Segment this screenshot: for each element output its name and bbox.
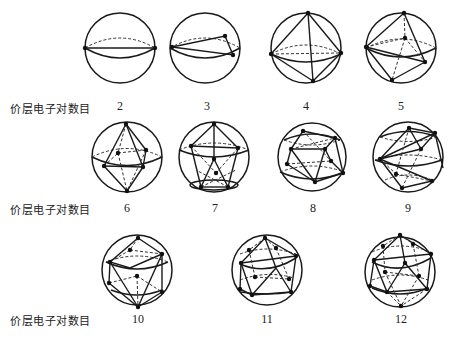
count-label-5: 5 — [398, 99, 404, 114]
count-label-3: 3 — [204, 99, 210, 114]
sphere-2-linear — [83, 13, 157, 83]
count-label-6: 6 — [124, 201, 130, 216]
sphere-12-icosahedral — [365, 233, 435, 308]
sphere-4-tetrahedral — [269, 11, 343, 83]
count-label-8: 8 — [310, 201, 316, 216]
count-label-4: 4 — [303, 99, 309, 114]
count-label-7: 7 — [212, 201, 218, 216]
row-label-1: 价层电子对数目 — [10, 100, 91, 116]
row-label-3: 价层电子对数目 — [10, 312, 91, 328]
vsepr-geometry-figure — [0, 0, 454, 338]
count-label-9: 9 — [405, 201, 411, 216]
sphere-7-pentagonal-bipyramidal — [179, 122, 249, 192]
sphere-10-bicapped-square-antiprismatic — [102, 235, 172, 309]
count-label-12: 12 — [395, 312, 407, 327]
sphere-8-square-antiprismatic — [278, 123, 346, 191]
sphere-5-trigonal-bipyramidal — [364, 11, 436, 83]
count-label-11: 11 — [261, 312, 273, 327]
sphere-3-trigonal-planar — [170, 13, 240, 83]
count-label-2: 2 — [117, 99, 123, 114]
row-label-2: 价层电子对数目 — [10, 201, 91, 217]
sphere-6-octahedral — [92, 122, 162, 193]
sphere-9-tricapped-trigonal-prismatic — [373, 122, 443, 192]
sphere-11-octadecahedral — [232, 235, 302, 305]
count-label-10: 10 — [132, 312, 144, 327]
